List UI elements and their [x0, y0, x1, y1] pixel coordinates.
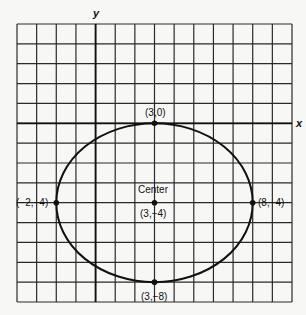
point-center [152, 200, 158, 206]
y-axis-label: y [92, 7, 100, 19]
point-label-center: (3,−4) [140, 208, 166, 219]
center-title: Center [138, 184, 169, 195]
ellipse-diagram: y x (3,0) Center (3,−4) (−2,−4) (8,−4) (… [0, 0, 306, 315]
point-label-right: (8,−4) [258, 197, 284, 208]
point-top [152, 120, 158, 126]
point-bottom [152, 279, 158, 285]
point-label-left: (−2,−4) [16, 197, 48, 208]
grid [17, 24, 292, 302]
point-right [250, 200, 256, 206]
point-label-bottom: (3,−8) [141, 291, 167, 302]
x-axis-label: x [295, 117, 303, 129]
point-label-top: (3,0) [145, 107, 166, 118]
point-left [53, 200, 59, 206]
